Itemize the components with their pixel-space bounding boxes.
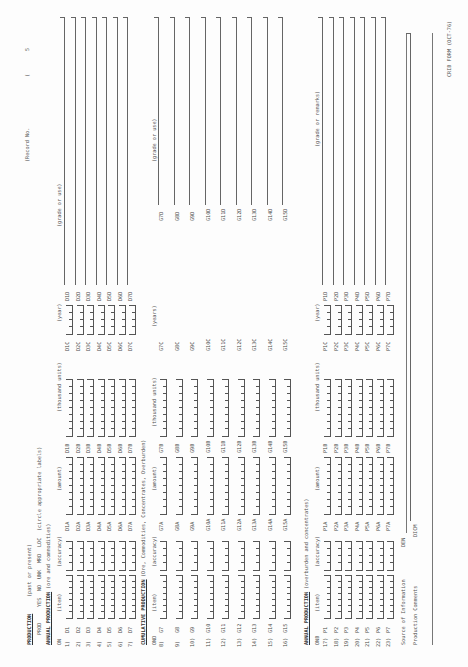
grade-field[interactable] <box>385 17 386 285</box>
grade-field[interactable] <box>64 17 65 285</box>
accuracy-boxes[interactable] <box>269 541 276 571</box>
thousand-units-boxes[interactable] <box>387 379 394 437</box>
thousand-units-boxes[interactable] <box>119 379 126 437</box>
status-no[interactable]: NO <box>36 585 42 591</box>
grade-field[interactable] <box>96 17 97 285</box>
thousand-units-boxes[interactable] <box>129 379 136 437</box>
year-boxes[interactable] <box>98 305 105 335</box>
grade-field[interactable] <box>236 17 237 205</box>
thousand-units-boxes[interactable] <box>222 379 229 437</box>
accuracy-boxes[interactable] <box>160 541 167 571</box>
year-boxes[interactable] <box>66 305 73 335</box>
amount-boxes[interactable] <box>345 457 352 515</box>
accuracy-boxes[interactable] <box>77 541 84 571</box>
amount-boxes[interactable] <box>207 457 214 515</box>
year-boxes[interactable] <box>345 305 352 335</box>
thousand-units-boxes[interactable] <box>269 379 276 437</box>
thousand-units-boxes[interactable] <box>324 379 331 437</box>
item-boxes[interactable] <box>191 575 198 619</box>
item-boxes[interactable] <box>387 575 394 619</box>
thousand-units-boxes[interactable] <box>160 379 167 437</box>
amount-boxes[interactable] <box>284 457 291 515</box>
accuracy-boxes[interactable] <box>176 541 183 571</box>
status-unk[interactable]: UNK <box>36 570 42 579</box>
amount-boxes[interactable] <box>129 457 136 515</box>
grade-field[interactable] <box>174 17 175 205</box>
grade-field[interactable] <box>282 17 283 205</box>
amount-boxes[interactable] <box>77 457 84 515</box>
grade-field[interactable] <box>117 17 118 285</box>
accuracy-boxes[interactable] <box>119 541 126 571</box>
grade-field[interactable] <box>85 17 86 285</box>
item-boxes[interactable] <box>324 575 331 619</box>
year-boxes[interactable] <box>119 305 126 335</box>
item-boxes[interactable] <box>77 575 84 619</box>
item-boxes[interactable] <box>87 575 94 619</box>
status-yes[interactable]: YES <box>36 598 42 607</box>
thousand-units-boxes[interactable] <box>238 379 245 437</box>
item-boxes[interactable] <box>98 575 105 619</box>
item-boxes[interactable] <box>345 575 352 619</box>
amount-boxes[interactable] <box>253 457 260 515</box>
accuracy-boxes[interactable] <box>191 541 198 571</box>
accuracy-boxes[interactable] <box>356 541 363 571</box>
year-boxes[interactable] <box>87 305 94 335</box>
amount-boxes[interactable] <box>269 457 276 515</box>
item-boxes[interactable] <box>129 575 136 619</box>
grade-field[interactable] <box>364 17 365 285</box>
year-boxes[interactable] <box>356 305 363 335</box>
grade-field[interactable] <box>375 17 376 285</box>
thousand-units-boxes[interactable] <box>176 379 183 437</box>
grade-field[interactable] <box>158 17 159 205</box>
amount-boxes[interactable] <box>87 457 94 515</box>
accuracy-boxes[interactable] <box>66 541 73 571</box>
thousand-units-boxes[interactable] <box>66 379 73 437</box>
year-boxes[interactable] <box>77 305 84 335</box>
status-prod[interactable]: PROD <box>36 623 42 636</box>
item-boxes[interactable] <box>269 575 276 619</box>
item-boxes[interactable] <box>119 575 126 619</box>
amount-boxes[interactable] <box>324 457 331 515</box>
thousand-units-boxes[interactable] <box>77 379 84 437</box>
grade-field[interactable] <box>251 17 252 205</box>
thousand-units-boxes[interactable] <box>207 379 214 437</box>
amount-boxes[interactable] <box>119 457 126 515</box>
thousand-units-boxes[interactable] <box>284 379 291 437</box>
item-boxes[interactable] <box>238 575 245 619</box>
grade-field[interactable] <box>220 17 221 205</box>
accuracy-boxes[interactable] <box>207 541 214 571</box>
grade-field[interactable] <box>354 17 355 285</box>
accuracy-boxes[interactable] <box>108 541 115 571</box>
item-boxes[interactable] <box>366 575 373 619</box>
item-boxes[interactable] <box>160 575 167 619</box>
grade-field[interactable] <box>333 17 334 285</box>
year-boxes[interactable] <box>366 305 373 335</box>
status-loc[interactable]: LOC <box>36 538 42 547</box>
year-boxes[interactable] <box>108 305 115 335</box>
amount-boxes[interactable] <box>356 457 363 515</box>
thousand-units-boxes[interactable] <box>108 379 115 437</box>
accuracy-boxes[interactable] <box>324 541 331 571</box>
item-boxes[interactable] <box>284 575 291 619</box>
thousand-units-boxes[interactable] <box>98 379 105 437</box>
grade-field[interactable] <box>75 17 76 285</box>
grade-field[interactable] <box>343 17 344 285</box>
thousand-units-boxes[interactable] <box>191 379 198 437</box>
item-boxes[interactable] <box>377 575 384 619</box>
year-boxes[interactable] <box>377 305 384 335</box>
grade-field[interactable] <box>267 17 268 205</box>
accuracy-boxes[interactable] <box>222 541 229 571</box>
thousand-units-boxes[interactable] <box>87 379 94 437</box>
thousand-units-boxes[interactable] <box>335 379 342 437</box>
amount-boxes[interactable] <box>335 457 342 515</box>
item-boxes[interactable] <box>66 575 73 619</box>
grade-field[interactable] <box>106 17 107 285</box>
amount-boxes[interactable] <box>387 457 394 515</box>
accuracy-boxes[interactable] <box>238 541 245 571</box>
thousand-units-boxes[interactable] <box>253 379 260 437</box>
thousand-units-boxes[interactable] <box>366 379 373 437</box>
item-boxes[interactable] <box>253 575 260 619</box>
thousand-units-boxes[interactable] <box>356 379 363 437</box>
amount-boxes[interactable] <box>66 457 73 515</box>
item-boxes[interactable] <box>207 575 214 619</box>
